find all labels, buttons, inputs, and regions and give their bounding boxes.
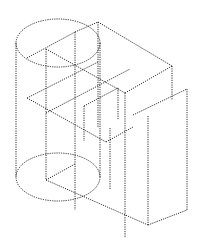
edge-line bbox=[125, 66, 172, 93]
cylinder-bottom-ellipse bbox=[16, 153, 100, 201]
edge-line bbox=[46, 69, 130, 113]
cylinder-top-ellipse bbox=[16, 19, 100, 67]
cylinder-ellipses bbox=[16, 19, 100, 201]
edge-line bbox=[27, 98, 106, 142]
edge-line bbox=[46, 49, 125, 93]
edge-line bbox=[98, 22, 172, 66]
edge-line bbox=[75, 22, 98, 32]
edge-line bbox=[133, 89, 187, 115]
edge-line bbox=[27, 32, 75, 58]
edge-line bbox=[27, 62, 98, 98]
edge-line bbox=[46, 164, 75, 180]
wireframe-drawing bbox=[0, 0, 199, 238]
edge-line bbox=[148, 210, 187, 225]
edge-line bbox=[46, 180, 148, 225]
wireframe-edges bbox=[16, 22, 187, 238]
